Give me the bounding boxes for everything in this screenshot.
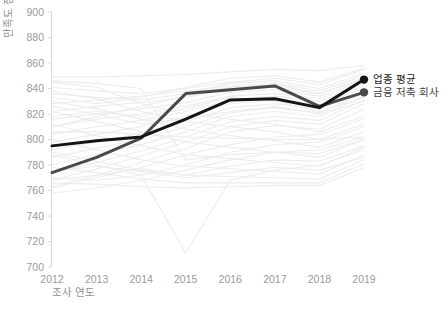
series-end-marker — [360, 75, 368, 83]
x-tick-label: 2018 — [308, 273, 332, 285]
y-tick-label: 720 — [26, 235, 44, 247]
line-chart: 700720740760780800820840860880900 201220… — [0, 0, 445, 311]
x-tick-label: 2017 — [263, 273, 287, 285]
x-tick-label: 2016 — [219, 273, 243, 285]
x-tick-label: 2014 — [129, 273, 153, 285]
x-tick-label: 2012 — [40, 273, 64, 285]
x-tick-label: 2013 — [85, 273, 109, 285]
y-tick-label: 820 — [26, 108, 44, 120]
y-axis-title: 만족도 점수 — [2, 0, 14, 38]
y-tick-label: 860 — [26, 57, 44, 69]
x-axis-title: 조사 연도 — [52, 286, 95, 298]
legend-label: 업종 평균 — [373, 73, 416, 85]
y-tick-label: 780 — [26, 159, 44, 171]
y-tick-label: 880 — [26, 31, 44, 43]
series-end-marker — [360, 88, 368, 96]
legend-label: 금융 저축 회사 — [373, 86, 439, 98]
y-tick-label: 700 — [26, 261, 44, 273]
x-tick-label: 2015 — [174, 273, 198, 285]
y-tick-label: 800 — [26, 133, 44, 145]
y-tick-label: 740 — [26, 210, 44, 222]
y-tick-label: 900 — [26, 6, 44, 18]
y-tick-label: 760 — [26, 184, 44, 196]
x-tick-label: 2019 — [352, 273, 376, 285]
chart-container: 700720740760780800820840860880900 201220… — [0, 0, 445, 311]
y-tick-label: 840 — [26, 82, 44, 94]
